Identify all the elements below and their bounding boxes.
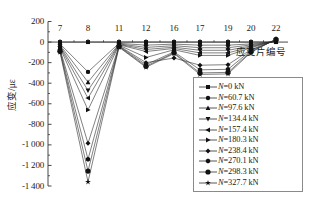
legend-item[interactable]: N=157.4 kN [198, 124, 300, 135]
y-tick-label: -1 400 [0, 182, 44, 191]
legend-item[interactable]: N=134.4 kN [198, 114, 300, 125]
legend-label: N=60.7 kN [218, 93, 254, 103]
legend-item[interactable]: N=298.3 kN [198, 167, 300, 178]
legend-marker-icon [198, 103, 218, 113]
legend-item[interactable]: N=97.6 kN [198, 103, 300, 114]
legend-label: N=134.4 kN [218, 114, 259, 124]
legend-label: N=157.4 kN [218, 125, 259, 135]
legend-label: N=0 kN [218, 82, 244, 92]
y-tick-label: -800 [0, 120, 44, 129]
y-tick-label: -1 000 [0, 140, 44, 149]
x-tick-label: 11 [109, 24, 129, 33]
legend-label: N=327.7 kN [218, 178, 259, 188]
legend-item[interactable]: N=238.4 kN [198, 146, 300, 157]
legend-label: N=238.4 kN [218, 146, 259, 156]
legend-marker-icon [198, 125, 218, 135]
x-tick-label: 22 [266, 24, 286, 33]
x-tick-label: 12 [136, 24, 156, 33]
legend-marker-icon [198, 135, 218, 145]
legend-item[interactable]: N=180.3 kN [198, 135, 300, 146]
legend-item[interactable]: N=327.7 kN [198, 177, 300, 188]
x-tick-label: 16 [164, 24, 184, 33]
legend-marker-icon [198, 146, 218, 156]
legend-label: N=298.3 kN [218, 167, 259, 177]
y-tick-label: -200 [0, 58, 44, 67]
series-line [58, 40, 278, 44]
x-tick-label: 7 [50, 24, 70, 33]
y-tick-label: 0 [0, 38, 44, 47]
legend-marker-icon [198, 82, 218, 92]
y-tick-label: -600 [0, 99, 44, 108]
y-tick-label: -1 200 [0, 161, 44, 170]
legend-marker-icon [198, 167, 218, 177]
x-tick-label: 8 [78, 24, 98, 33]
x-tick-label: 19 [218, 24, 238, 33]
legend-label: N=270.1 kN [218, 156, 259, 166]
legend-marker-icon [198, 156, 218, 166]
legend-item[interactable]: N=270.1 kN [198, 156, 300, 167]
strain-gauge-chart: 应变/με 应变片编号 2000-200-400-600-800-1 000-1… [0, 0, 311, 202]
y-tick-label: 200 [0, 17, 44, 26]
x-tick-label: 20 [241, 24, 261, 33]
legend-marker-icon [198, 178, 218, 188]
x-tick-label: 17 [190, 24, 210, 33]
y-tick-label: -400 [0, 79, 44, 88]
legend-label: N=97.6 kN [218, 103, 254, 113]
legend-label: N=180.3 kN [218, 135, 259, 145]
legend-marker-icon [198, 114, 218, 124]
legend-item[interactable]: N=0 kN [198, 82, 300, 93]
legend: N=0 kNN=60.7 kNN=97.6 kNN=134.4 kNN=157.… [193, 77, 303, 192]
legend-item[interactable]: N=60.7 kN [198, 93, 300, 104]
legend-marker-icon [198, 93, 218, 103]
